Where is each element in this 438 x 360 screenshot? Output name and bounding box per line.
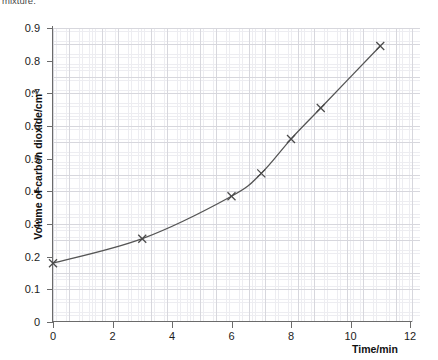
y-axis-line [52, 26, 53, 323]
x-tick-6 [232, 322, 233, 328]
x-tick-2 [113, 322, 114, 328]
plot-area [53, 28, 420, 322]
y-tick-label-0.9: 0.9 [14, 23, 40, 34]
y-tick-0.6 [47, 126, 53, 127]
x-tick-12 [410, 322, 411, 328]
x-tick-label-2: 2 [98, 331, 128, 342]
y-tick-0.5 [47, 159, 53, 160]
y-tick-0.2 [47, 257, 53, 258]
x-tick-0 [53, 322, 54, 328]
y-tick-0.9 [47, 28, 53, 29]
y-tick-0.3 [47, 224, 53, 225]
x-tick-10 [351, 322, 352, 328]
x-tick-label-4: 4 [157, 331, 187, 342]
x-tick-label-12: 12 [395, 331, 425, 342]
x-tick-label-8: 8 [276, 331, 306, 342]
y-tick-0.7 [47, 93, 53, 94]
y-tick-label-0: 0 [14, 317, 40, 328]
chart-screenshot: mixture. 0.9 0.8 0.7 0.6 0.5 0.4 0.3 0.2… [0, 0, 438, 360]
y-tick-0.1 [47, 289, 53, 290]
x-tick-label-0: 0 [38, 331, 68, 342]
y-tick-0.4 [47, 191, 53, 192]
x-tick-8 [291, 322, 292, 328]
x-tick-label-10: 10 [336, 331, 366, 342]
x-axis-title: Time/min [352, 343, 398, 355]
x-tick-4 [172, 322, 173, 328]
y-axis-title-text: Volume of carbon dioxide/cm [32, 94, 44, 240]
y-axis-title: Volume of carbon dioxide/cm3 [30, 50, 44, 280]
y-tick-0.8 [47, 61, 53, 62]
x-tick-label-6: 6 [217, 331, 247, 342]
y-tick-label-0.1: 0.1 [14, 284, 40, 295]
top-caption-text: mixture. [2, 0, 202, 6]
y-axis-title-superscript: 3 [30, 90, 39, 94]
